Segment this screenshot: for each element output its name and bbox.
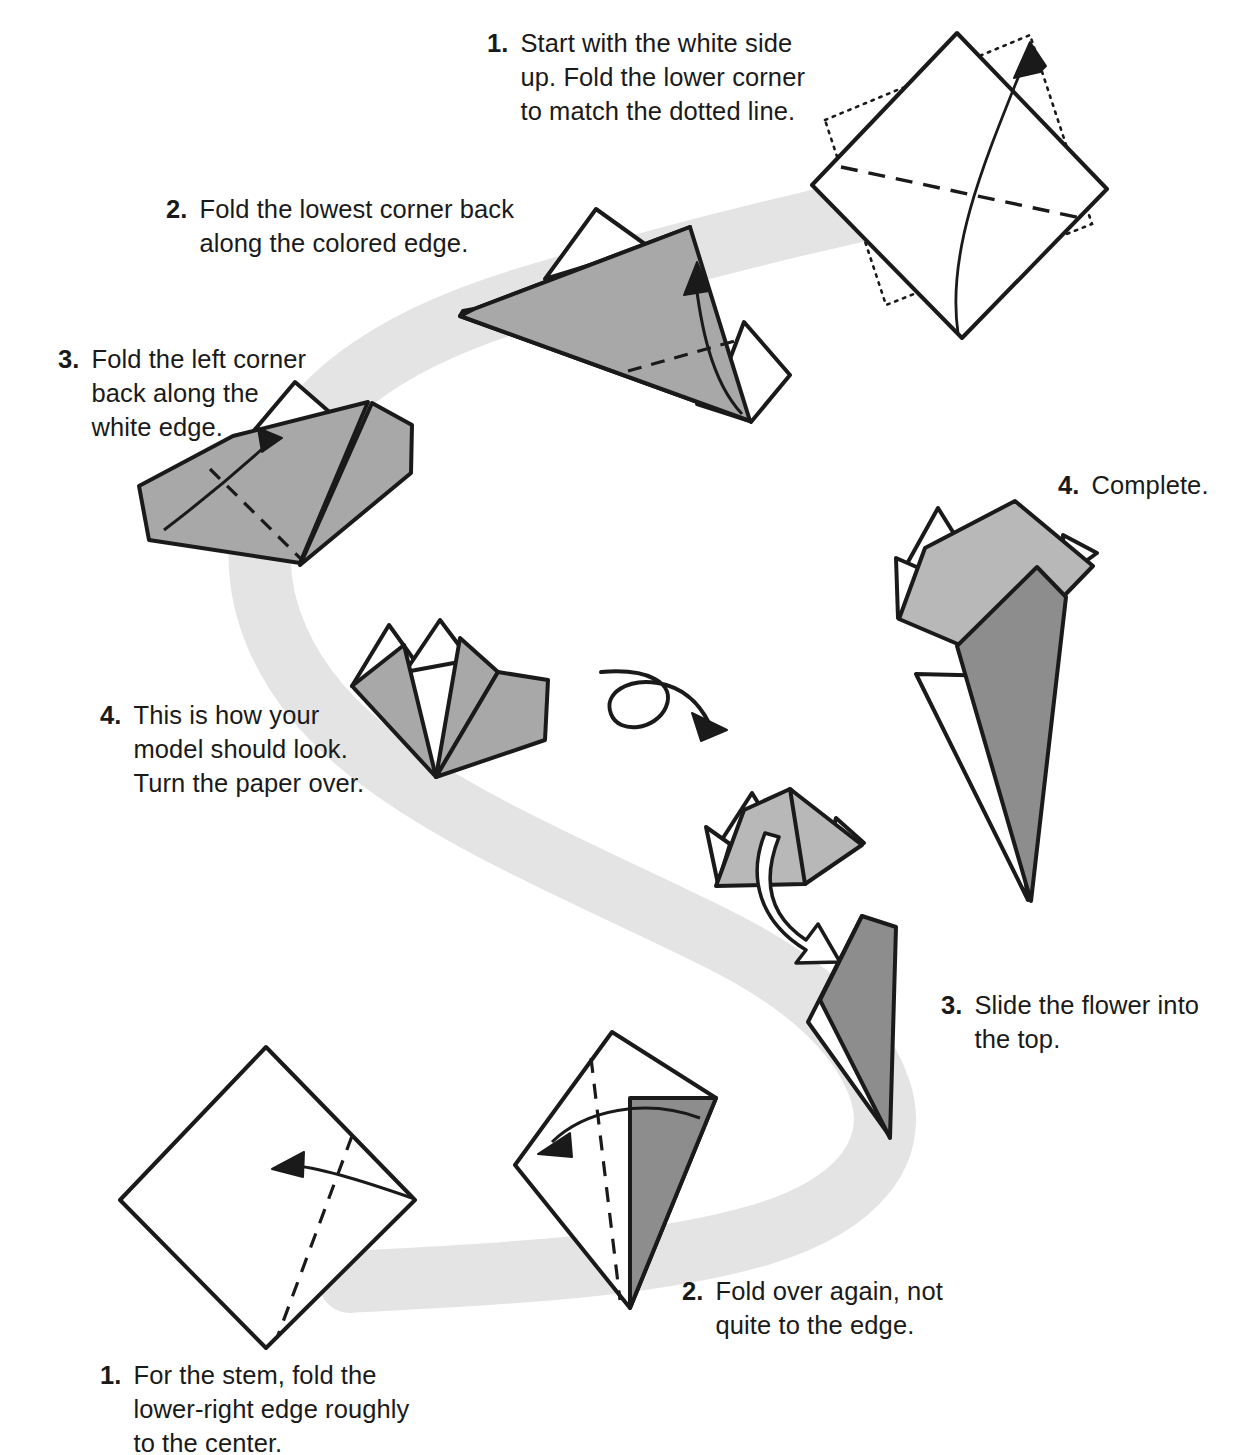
figure-complete (896, 501, 1097, 901)
step-number: 1. (487, 26, 508, 60)
step-note-2: 2. Fold the lowest corner back along the… (166, 192, 536, 260)
step-text: Complete. (1091, 468, 1237, 502)
step-number: 3. (941, 988, 962, 1022)
gray-petal-right (790, 789, 862, 884)
step-text: Fold the lowest corner back along the co… (199, 192, 536, 260)
figure-square-start (812, 33, 1107, 338)
step-number: 2. (166, 192, 187, 226)
turn-over-loop (601, 671, 709, 727)
step-text: Start with the white side up. Fold the l… (520, 26, 817, 128)
step-note-1-stem: 1. For the stem, fold the lower-right ed… (100, 1358, 420, 1455)
step-note-2-stem: 2. Fold over again, not quite to the edg… (682, 1274, 972, 1342)
step-number: 4. (100, 698, 121, 732)
figure-flower-small (706, 789, 864, 886)
step-note-4-turnover: 4. This is how your model should look. T… (100, 698, 365, 800)
step-note-3-slide: 3. Slide the flower into the top. (941, 988, 1201, 1056)
step-number: 3. (58, 342, 79, 376)
turn-over-arrow-head (692, 713, 727, 741)
step-text: Fold over again, not quite to the edge. (715, 1274, 972, 1342)
figure-turn-over-arrow (601, 671, 727, 741)
step-text: This is how your model should look. Turn… (133, 698, 365, 800)
step-note-1: 1. Start with the white side up. Fold th… (487, 26, 817, 128)
step-number: 4. (1058, 468, 1079, 502)
step-note-4-complete: 4. Complete. (1058, 468, 1237, 502)
step-text: Slide the flower into the top. (974, 988, 1201, 1056)
step-note-3: 3. Fold the left corner back along the w… (58, 342, 308, 444)
paper-square (812, 33, 1107, 338)
step-number: 1. (100, 1358, 121, 1392)
step-number: 2. (682, 1274, 703, 1308)
step-text: For the stem, fold the lower-right edge … (133, 1358, 420, 1455)
step-text: Fold the left corner back along the whit… (91, 342, 308, 444)
